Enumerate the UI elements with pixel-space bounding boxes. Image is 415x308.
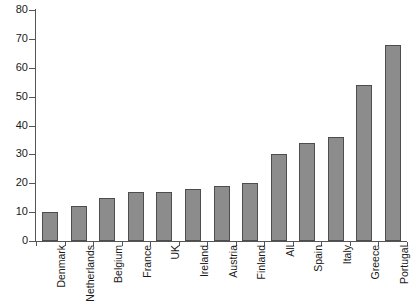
y-axis-tick-label: 50 [0, 91, 28, 102]
y-axis-tick [29, 154, 35, 155]
bar [185, 189, 201, 241]
y-axis-tick [29, 68, 35, 69]
bar [71, 206, 87, 241]
y-axis-tick-label: 60 [0, 62, 28, 73]
y-axis-tick-label: 40 [0, 120, 28, 131]
y-axis-tick [29, 10, 35, 11]
x-axis-category-label: Portugal [398, 244, 415, 306]
y-axis-tick [29, 241, 35, 242]
y-axis-tick [29, 126, 35, 127]
y-axis-tick-label: 30 [0, 148, 28, 159]
bar [385, 45, 401, 241]
y-axis-tick-label: 80 [0, 4, 28, 15]
y-axis-tick [29, 212, 35, 213]
bars-group [36, 10, 407, 241]
bar [99, 198, 115, 241]
bar-chart: 01020304050607080 DenmarkNetherlandsBelg… [0, 0, 415, 308]
bar [128, 192, 144, 241]
y-axis-tick-label: 20 [0, 177, 28, 188]
y-axis-tick-label: 0 [0, 235, 28, 246]
x-axis-line [35, 241, 407, 242]
bar [242, 183, 258, 241]
y-axis-tick-label: 10 [0, 206, 28, 217]
bar [299, 143, 315, 241]
y-axis-tick-label: 70 [0, 33, 28, 44]
bar [156, 192, 172, 241]
y-axis-tick [29, 183, 35, 184]
x-axis-labels: DenmarkNetherlandsBelgiumFranceUKIreland… [36, 244, 407, 308]
bar [214, 186, 230, 241]
bar [356, 85, 372, 241]
bar [271, 154, 287, 241]
y-axis-tick [29, 39, 35, 40]
bar [328, 137, 344, 241]
y-axis-tick [29, 97, 35, 98]
bar [42, 212, 58, 241]
